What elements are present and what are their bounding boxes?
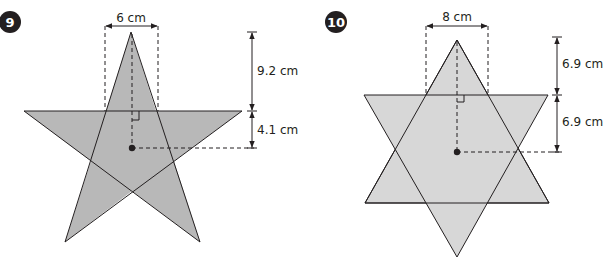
- problem-number-badge: 10: [325, 11, 347, 33]
- problem-number-badge: 9: [0, 11, 21, 33]
- width-label: 6 cm: [116, 11, 146, 25]
- lower-height-label: 4.1 cm: [257, 123, 298, 137]
- problem-9: 9 6 cm: [0, 11, 298, 242]
- problem-number: 10: [327, 15, 345, 30]
- upper-height-label: 9.2 cm: [257, 64, 298, 78]
- pentagram-star: [24, 32, 242, 242]
- center-point: [129, 145, 135, 151]
- diagram-canvas: 9 6 cm: [0, 0, 611, 267]
- problem-10: 10 8 cm 6.9 cm: [325, 10, 603, 257]
- height-dimensions: [247, 32, 257, 148]
- height-dimensions: [552, 37, 562, 152]
- problem-number: 9: [5, 15, 14, 30]
- width-dimension: 8 cm: [427, 10, 487, 26]
- upper-height-label: 6.9 cm: [562, 57, 603, 71]
- width-dimension: 6 cm: [106, 11, 157, 26]
- width-label: 8 cm: [442, 10, 472, 24]
- lower-height-label: 6.9 cm: [562, 115, 603, 129]
- center-point: [454, 149, 460, 155]
